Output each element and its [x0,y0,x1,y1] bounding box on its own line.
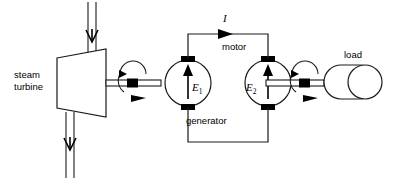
steam-turbine [57,49,106,117]
motor-label: motor [222,41,246,52]
motor-emf-subscript: 2 [253,87,257,96]
steam-outlet-pipe [64,112,76,178]
current-arrow [218,29,233,39]
load-body [324,65,382,99]
rotation-arrow-load [303,95,318,102]
turbine-generator-shaft [106,61,161,102]
generator-symbol [165,56,211,110]
load-label: load [344,49,362,60]
shaft-coupling-generator [127,79,138,88]
shaft-coupling-load [299,79,310,88]
steam-turbine-label-line2: turbine [14,81,43,92]
power-system-schematic: steam turbine generator motor load I E1 … [0,0,397,182]
generator-emf-subscript: 1 [199,87,203,96]
current-label: I [222,12,228,24]
rotation-arrow-generator [131,95,146,102]
diagram-canvas: steam turbine generator motor load I E1 … [0,0,397,182]
generator-label: generator [186,115,227,126]
steam-turbine-label-line1: steam [14,69,40,80]
